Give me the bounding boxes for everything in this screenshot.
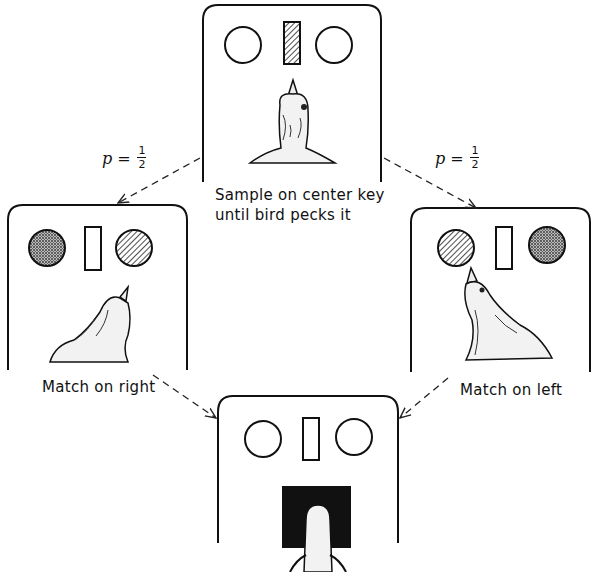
right-key — [336, 419, 372, 455]
probability-symbol: p = — [435, 149, 464, 168]
panel-match-left — [411, 208, 590, 372]
right-key — [316, 27, 352, 63]
fraction-numerator: 1 — [470, 145, 480, 156]
fraction-denominator: 2 — [137, 159, 147, 170]
panel-reinforcement — [218, 396, 398, 572]
procedure-diagram — [0, 0, 593, 572]
center-key — [303, 418, 319, 460]
caption-sample-line1: Sample on center key — [215, 186, 385, 204]
fraction-denominator: 2 — [470, 159, 480, 170]
pigeon-icon — [465, 268, 552, 360]
caption-match-left: Match on left — [460, 381, 562, 399]
left-key — [225, 27, 261, 63]
caption-match-right: Match on right — [42, 378, 155, 396]
pigeon-icon — [250, 80, 335, 163]
probability-symbol: p = — [102, 149, 131, 168]
left-key-striped — [438, 230, 474, 266]
right-key-dotted — [529, 227, 565, 263]
panel-sample — [203, 5, 381, 182]
right-key-striped — [116, 230, 152, 266]
center-key — [496, 227, 512, 269]
center-key-sample — [284, 22, 300, 64]
fraction-numerator: 1 — [137, 145, 147, 156]
pigeon-icon — [50, 287, 130, 362]
left-key — [245, 421, 281, 457]
center-key — [85, 227, 101, 270]
caption-sample-line2: until bird pecks it — [215, 206, 351, 224]
left-key-dotted — [29, 230, 65, 266]
panel-match-right — [8, 205, 187, 370]
